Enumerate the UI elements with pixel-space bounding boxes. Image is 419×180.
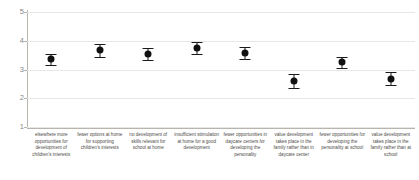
error-bar-cap-lower: [46, 65, 57, 66]
error-bar-cap-lower: [337, 68, 348, 69]
data-point-marker: [387, 75, 394, 82]
data-point-marker: [242, 50, 249, 57]
data-point-marker: [48, 56, 55, 63]
x-axis-line: [27, 128, 415, 129]
x-category-label: insufficient stimulation at home for a g…: [173, 132, 221, 152]
error-bar-cap-lower: [288, 88, 299, 89]
y-tick-label-3: 3: [4, 66, 24, 74]
x-axis-category-labels: elsewhere more opportunities for develop…: [27, 132, 415, 180]
error-bar-cap-upper: [143, 48, 154, 49]
y-tick-label-1: 1: [4, 123, 24, 131]
data-point-group: [91, 12, 109, 127]
error-bar-cap-lower: [143, 60, 154, 61]
error-bar-cap-upper: [46, 54, 57, 55]
y-tick-label-2: 2: [4, 95, 24, 103]
error-bar-cap-lower: [385, 85, 396, 86]
data-point-group: [42, 12, 60, 127]
y-tick-label-4: 4: [4, 37, 24, 45]
data-point-group: [236, 12, 254, 127]
x-category-label: fewer opportunities in daycare centers f…: [221, 132, 269, 158]
gridline-y-1: [27, 127, 415, 128]
data-point-marker: [96, 47, 103, 54]
x-category-label: fewer opportunities for developing the p…: [318, 132, 366, 152]
gridline-y-5: [27, 12, 415, 13]
data-point-marker: [193, 44, 200, 51]
data-point-group: [188, 12, 206, 127]
error-bar-cap-upper: [288, 74, 299, 75]
error-bar-cap-upper: [385, 72, 396, 73]
error-bar-cap-lower: [191, 54, 202, 55]
data-point-marker: [290, 78, 297, 85]
gridline-y-3: [27, 70, 415, 71]
error-bar-cap-lower: [240, 59, 251, 60]
error-bar-cap-upper: [94, 44, 105, 45]
y-axis-tick-labels: 12345: [0, 12, 24, 127]
data-point-group: [333, 12, 351, 127]
gridline-y-4: [27, 41, 415, 42]
gridline-y-2: [27, 98, 415, 99]
x-category-label: value development takes place in the fam…: [270, 132, 318, 158]
error-bar-cap-upper: [337, 57, 348, 58]
data-point-group: [382, 12, 400, 127]
x-category-label: elsewhere more opportunities for develop…: [27, 132, 75, 158]
error-bar-cap-upper: [240, 47, 251, 48]
x-category-label: fewer options at home for supporting chi…: [76, 132, 124, 152]
data-point-marker: [145, 50, 152, 57]
y-tick-label-5: 5: [4, 8, 24, 16]
chart-figure: 12345 elsewhere more opportunities for d…: [0, 0, 419, 180]
error-bar-cap-lower: [94, 57, 105, 58]
plot-area: [27, 12, 415, 127]
data-point-group: [139, 12, 157, 127]
data-point-marker: [339, 59, 346, 66]
x-category-label: value development takes place in the fam…: [367, 132, 415, 158]
error-bar-cap-upper: [191, 42, 202, 43]
x-category-label: no development of skills relevant for sc…: [124, 132, 172, 152]
data-point-group: [285, 12, 303, 127]
